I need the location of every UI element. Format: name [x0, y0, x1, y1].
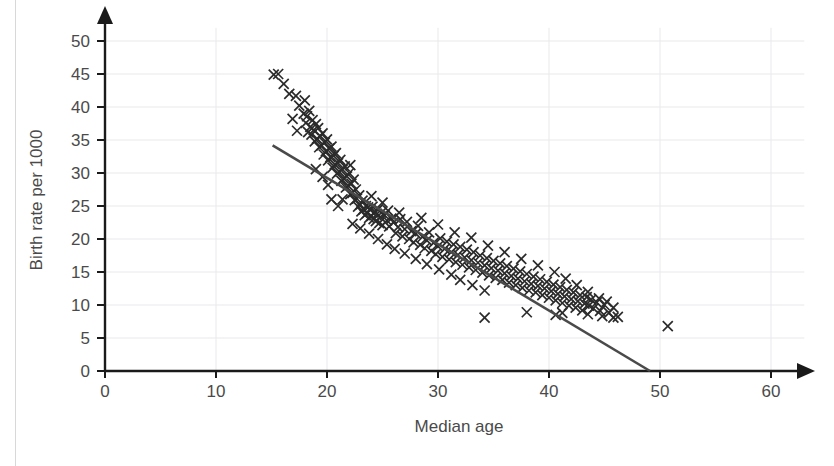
data-point-marker	[500, 247, 510, 257]
data-point-marker	[583, 309, 593, 319]
scatter-plot-figure: 010203040506005101520253035404550 Median…	[0, 0, 834, 466]
data-point-marker	[288, 114, 298, 124]
x-tick-label: 20	[318, 382, 337, 401]
x-axis-title: Median age	[415, 417, 504, 436]
tick-labels-group: 010203040506005101520253035404550	[71, 32, 780, 401]
x-axis-arrow-icon	[797, 363, 815, 379]
data-point-marker	[663, 321, 673, 331]
y-tick-label: 0	[81, 362, 90, 381]
x-tick-label: 30	[429, 382, 448, 401]
data-point-marker	[455, 275, 465, 285]
trendline-group	[273, 145, 650, 371]
data-point-marker	[533, 260, 543, 270]
data-point-marker	[483, 241, 493, 251]
y-tick-label: 40	[71, 98, 90, 117]
y-axis-title: Birth rate per 1000	[27, 130, 46, 271]
y-tick-label: 35	[71, 131, 90, 150]
data-point-marker	[467, 280, 477, 290]
x-tick-label: 60	[762, 382, 781, 401]
data-point-marker	[400, 249, 410, 259]
data-points-group	[269, 69, 673, 331]
y-tick-label: 10	[71, 296, 90, 315]
data-point-marker	[516, 254, 526, 264]
data-point-marker	[434, 264, 444, 274]
data-point-marker	[450, 227, 460, 237]
line-of-best-fit	[273, 145, 650, 371]
data-point-marker	[446, 270, 456, 280]
data-point-marker	[279, 79, 289, 89]
data-point-marker	[331, 148, 341, 158]
y-tick-label: 30	[71, 164, 90, 183]
data-point-marker	[422, 259, 432, 269]
data-point-marker	[480, 285, 490, 295]
x-tick-label: 40	[540, 382, 559, 401]
data-point-marker	[466, 233, 476, 243]
y-tick-label: 50	[71, 32, 90, 51]
data-point-marker	[480, 313, 490, 323]
gridlines-group	[105, 28, 804, 371]
data-point-marker	[561, 274, 571, 284]
x-tick-label: 50	[651, 382, 670, 401]
data-point-marker	[318, 128, 328, 138]
y-axis-arrow-icon	[97, 6, 113, 24]
y-tick-label: 20	[71, 230, 90, 249]
y-tick-label: 5	[81, 329, 90, 348]
data-point-marker	[292, 126, 302, 136]
x-tick-label: 10	[207, 382, 226, 401]
data-point-marker	[364, 229, 374, 239]
y-tick-label: 25	[71, 197, 90, 216]
data-point-marker	[394, 208, 404, 218]
y-tick-label: 15	[71, 263, 90, 282]
data-point-marker	[522, 307, 532, 317]
x-tick-label: 0	[100, 382, 109, 401]
y-tick-label: 45	[71, 65, 90, 84]
data-point-marker	[411, 254, 421, 264]
chart-canvas: 010203040506005101520253035404550 Median…	[0, 0, 834, 466]
axes-group	[97, 6, 815, 379]
